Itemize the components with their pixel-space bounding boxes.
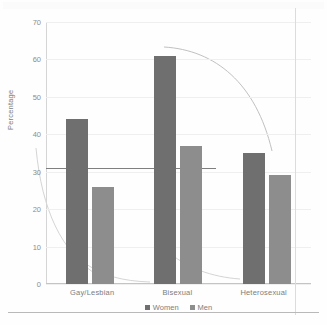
x-tick-label: Bisexual [162, 288, 192, 297]
x-tick-label: Heterosexual [240, 288, 287, 297]
y-tick-label: 40 [33, 130, 41, 139]
page-top-text-sliver [0, 0, 327, 9]
chart-legend: WomenMen [46, 303, 311, 312]
bar-men [92, 187, 114, 284]
x-tick-label: Gay/Lesbian [70, 288, 114, 297]
scan-artifact-vertical-line [295, 8, 296, 315]
gridline [46, 284, 311, 285]
legend-label: Women [153, 303, 179, 312]
bar-group [154, 22, 202, 284]
y-tick-label: 20 [33, 205, 41, 214]
ghost-text-band [3, 2, 324, 9]
legend-label: Men [198, 303, 213, 312]
legend-item-men[interactable]: Men [190, 303, 213, 312]
scanned-chart-page: 010203040506070 Percentage Gay/LesbianBi… [0, 0, 327, 325]
bar-men [269, 175, 291, 284]
bar-women [66, 119, 88, 284]
legend-swatch-icon [190, 305, 195, 310]
legend-item-women[interactable]: Women [145, 303, 179, 312]
bar-men [180, 146, 202, 284]
y-tick-label: 0 [37, 280, 41, 289]
bar-group [66, 22, 114, 284]
bar-groups [46, 22, 311, 284]
legend-swatch-icon [145, 305, 150, 310]
y-tick-label: 10 [33, 242, 41, 251]
bar-women [154, 56, 176, 284]
bar-group [243, 22, 291, 284]
y-tick-label: 50 [33, 92, 41, 101]
y-axis-title: Percentage [6, 90, 15, 130]
bar-women [243, 153, 265, 284]
chart-figure: 010203040506070 Percentage Gay/LesbianBi… [8, 12, 319, 308]
y-tick-label: 30 [33, 167, 41, 176]
plot-area: 010203040506070 [46, 22, 311, 284]
y-tick-label: 70 [33, 18, 41, 27]
y-tick-label: 60 [33, 55, 41, 64]
x-axis-labels: Gay/LesbianBisexualHeterosexual [46, 288, 311, 297]
page-bottom-rule [8, 312, 319, 313]
